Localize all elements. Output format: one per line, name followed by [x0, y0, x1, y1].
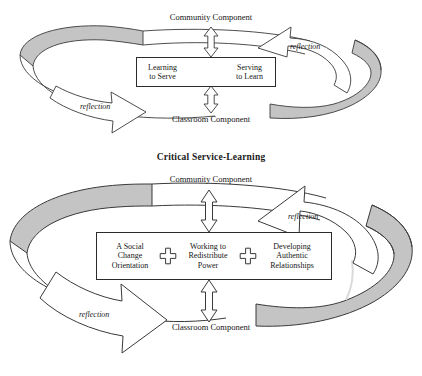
- community-component-label-traditional: Community Component: [121, 12, 301, 22]
- figure-critical-service-learning: Critical Service-Learning: [0, 152, 422, 376]
- reflection-label-right-traditional: reflection: [290, 42, 320, 51]
- core-box-critical: A Social Change Orientation Working to R…: [96, 232, 332, 280]
- vertical-double-arrow-bottom-icon: [204, 86, 218, 113]
- vertical-double-arrow-top-icon: [201, 190, 217, 232]
- plus-sign-icon-2: [239, 247, 257, 265]
- reflection-label-left-traditional: reflection: [80, 102, 110, 111]
- core-box-traditional: Learning to Serve Serving to Learn: [136, 57, 276, 87]
- vertical-double-arrow-bottom-icon: [201, 280, 217, 322]
- core-cell-serving-to-learn: Serving to Learn: [229, 63, 270, 81]
- core-cell-working-to-redistribute-power: Working to Redistribute Power: [177, 242, 239, 270]
- reflection-label-left-critical: reflection: [79, 310, 109, 319]
- core-cell-social-change-orientation: A Social Change Orientation: [101, 242, 159, 270]
- community-component-label-critical: Community Component: [121, 174, 301, 184]
- figure-traditional-service-learning: Traditional Service-Learning: [0, 0, 422, 152]
- core-cell-learning-to-serve: Learning to Serve: [142, 63, 183, 81]
- classroom-component-label-critical: Classroom Component: [121, 322, 301, 332]
- plus-sign-icon-1: [159, 247, 177, 265]
- reflection-label-right-critical: reflection: [288, 212, 318, 221]
- vertical-double-arrow-top-icon: [204, 27, 218, 57]
- core-cell-developing-authentic-relationships: Developing Authentic Relationships: [257, 242, 327, 270]
- classroom-component-label-traditional: Classroom Component: [121, 114, 301, 124]
